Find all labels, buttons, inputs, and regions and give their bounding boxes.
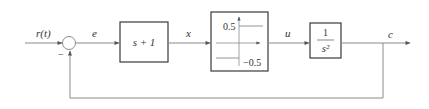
input-signal: r(t) — [25, 27, 62, 43]
relay-lower-label: −0.5 — [243, 57, 261, 68]
output-signal: c — [341, 28, 410, 43]
relay-upper-label: 0.5 — [223, 21, 236, 32]
controller-block: s + 1 — [120, 22, 168, 62]
plant-numerator: 1 — [323, 27, 328, 38]
summing-junction: − — [58, 37, 76, 61]
block-diagram: r(t) − e s + 1 x 0.5 −0.5 u — [0, 0, 429, 109]
u-label: u — [285, 27, 291, 39]
error-signal: e — [76, 27, 119, 43]
x-label: x — [185, 27, 191, 39]
plant-block: 1 s² — [310, 23, 341, 58]
plant-denominator: s² — [322, 42, 330, 54]
error-label: e — [92, 27, 97, 39]
controller-transfer-function: s + 1 — [133, 36, 156, 48]
x-signal: x — [168, 27, 210, 43]
input-label: r(t) — [36, 27, 51, 40]
u-signal: u — [268, 27, 309, 43]
output-label: c — [388, 28, 393, 40]
feedback-sign: − — [58, 49, 64, 60]
relay-block: 0.5 −0.5 — [211, 12, 268, 71]
